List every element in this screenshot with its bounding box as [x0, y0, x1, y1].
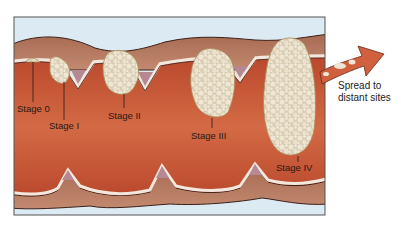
tumor-stage-3 — [191, 49, 235, 117]
label-stage-2: Stage II — [108, 110, 141, 121]
spread-label: Spread to distant sites — [338, 80, 391, 104]
label-stage-1: Stage I — [49, 120, 79, 131]
colon-cross-section-illustration — [0, 0, 401, 226]
spread-arrow — [320, 46, 384, 84]
spread-label-line2: distant sites — [338, 92, 391, 104]
tumor-stage-4 — [264, 38, 316, 155]
spread-label-line1: Spread to — [338, 80, 391, 92]
label-stage-0: Stage 0 — [17, 103, 50, 114]
label-stage-3: Stage III — [191, 130, 226, 141]
label-stage-4: Stage IV — [276, 162, 312, 173]
tumor-stage-2 — [103, 50, 139, 94]
